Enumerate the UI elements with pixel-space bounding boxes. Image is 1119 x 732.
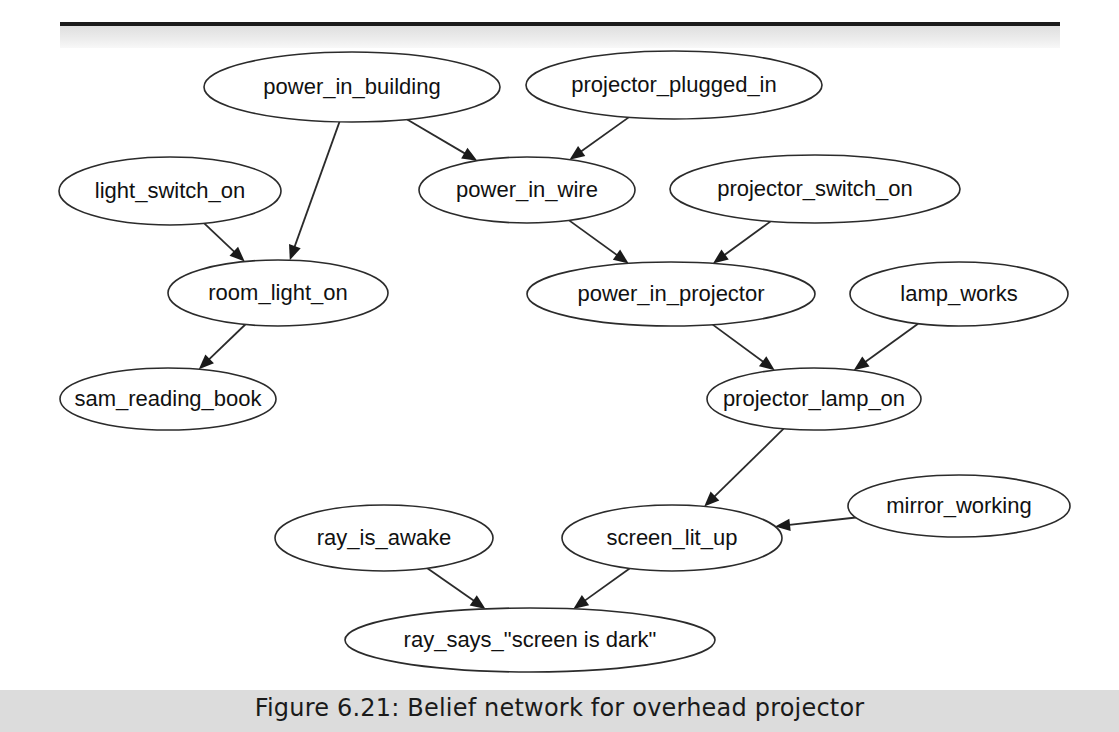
edge-projector_lamp_on-to-screen_lit_up xyxy=(713,429,784,498)
edge-lamp_works-to-projector_lamp_on xyxy=(863,324,918,364)
node-label-power_in_wire: power_in_wire xyxy=(456,177,598,202)
node-projector_switch_on[interactable]: projector_switch_on xyxy=(670,155,960,223)
edge-mirror_working-to-screen_lit_up xyxy=(787,517,856,525)
edge-power_in_building-to-power_in_wire xyxy=(407,119,467,154)
node-label-sam_reading_book: sam_reading_book xyxy=(74,386,262,411)
node-sam_reading_book[interactable]: sam_reading_book xyxy=(60,368,276,430)
node-mirror_working[interactable]: mirror_working xyxy=(848,475,1070,537)
edge-power_in_building-to-room_light_on xyxy=(294,122,340,249)
arrowhead-icon xyxy=(289,244,301,260)
arrowhead-icon xyxy=(573,595,589,609)
edge-light_switch_on-to-room_light_on xyxy=(204,223,236,253)
arrowhead-icon xyxy=(470,595,486,609)
node-light_switch_on[interactable]: light_switch_on xyxy=(59,157,281,225)
arrowhead-icon xyxy=(759,356,775,370)
node-power_in_projector[interactable]: power_in_projector xyxy=(527,262,815,326)
node-label-power_in_projector: power_in_projector xyxy=(577,281,764,306)
node-label-room_light_on: room_light_on xyxy=(208,280,347,305)
node-label-power_in_building: power_in_building xyxy=(263,74,440,99)
node-room_light_on[interactable]: room_light_on xyxy=(168,260,388,326)
node-ray_says_screen_dark[interactable]: ray_says_"screen is dark" xyxy=(345,608,715,672)
arrowhead-icon xyxy=(713,250,729,264)
figure-page: power_in_buildingprojector_plugged_inlig… xyxy=(0,0,1119,732)
node-label-lamp_works: lamp_works xyxy=(900,281,1017,306)
node-power_in_wire[interactable]: power_in_wire xyxy=(419,157,635,223)
edge-ray_is_awake-to-ray_says_screen_dark xyxy=(427,568,475,602)
node-projector_lamp_on[interactable]: projector_lamp_on xyxy=(707,368,921,430)
edge-power_in_wire-to-power_in_projector xyxy=(569,220,619,256)
node-screen_lit_up[interactable]: screen_lit_up xyxy=(562,505,782,571)
node-label-ray_says_screen_dark: ray_says_"screen is dark" xyxy=(404,627,657,652)
edge-screen_lit_up-to-ray_says_screen_dark xyxy=(583,568,630,601)
node-projector_plugged_in[interactable]: projector_plugged_in xyxy=(526,51,822,119)
node-label-projector_lamp_on: projector_lamp_on xyxy=(723,386,905,411)
arrowhead-icon xyxy=(854,356,870,370)
node-label-projector_switch_on: projector_switch_on xyxy=(717,176,913,201)
edge-projector_switch_on-to-power_in_projector xyxy=(723,221,771,256)
node-lamp_works[interactable]: lamp_works xyxy=(850,262,1068,326)
arrowhead-icon xyxy=(569,146,585,160)
node-label-mirror_working: mirror_working xyxy=(886,493,1031,518)
arrowhead-icon xyxy=(613,250,629,264)
node-label-light_switch_on: light_switch_on xyxy=(95,178,245,203)
node-power_in_building[interactable]: power_in_building xyxy=(204,52,500,122)
node-label-screen_lit_up: screen_lit_up xyxy=(607,525,738,550)
edge-projector_plugged_in-to-power_in_wire xyxy=(579,117,628,152)
node-ray_is_awake[interactable]: ray_is_awake xyxy=(275,505,493,571)
belief-network-graph: power_in_buildingprojector_plugged_inlig… xyxy=(0,0,1119,732)
node-label-ray_is_awake: ray_is_awake xyxy=(317,525,452,550)
arrowhead-icon xyxy=(461,148,477,161)
edge-room_light_on-to-sam_reading_book xyxy=(207,325,245,361)
node-label-projector_plugged_in: projector_plugged_in xyxy=(571,72,777,97)
figure-caption: Figure 6.21: Belief network for overhead… xyxy=(0,694,1119,722)
edge-power_in_projector-to-projector_lamp_on xyxy=(713,325,765,363)
